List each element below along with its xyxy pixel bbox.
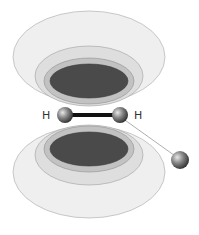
bottom-core: [50, 132, 128, 166]
right-hydrogen-atom: [112, 107, 128, 123]
orbital-diagram: H H: [0, 0, 199, 235]
bottom-electron-lobe: [13, 125, 165, 218]
left-hydrogen-atom: [57, 107, 73, 123]
top-core: [50, 64, 128, 98]
top-electron-lobe: [13, 11, 165, 106]
hh-bond: [66, 113, 120, 117]
left-atom-label: H: [42, 109, 50, 122]
right-atom-label: H: [134, 109, 142, 122]
third-atom: [171, 151, 189, 169]
